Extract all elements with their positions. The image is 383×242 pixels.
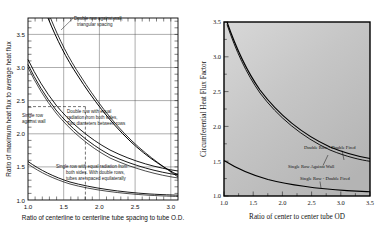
left-annot4-line-2: both sides. With double rows, [66, 170, 125, 175]
left-xtick-3-0: 3.0 [166, 203, 175, 210]
left-ytick-3-5: 3.5 [16, 31, 25, 38]
right-x-tick-labels: 1.0 1.5 2.0 2.5 3.0 3.5 [220, 199, 374, 206]
right-y-axis-title: Circumferential Heat Flux Factor [200, 60, 208, 157]
right-annot-single-row-fired: Single Row - Double Fired [300, 176, 350, 181]
left-annot2-line-2: against wall [22, 119, 46, 124]
right-xtick-3-5: 3.5 [366, 199, 374, 206]
left-x-tick-labels: 1.0 1.5 2.0 2.5 3.0 [24, 203, 176, 210]
right-y-tick-labels: 3.5 3.0 2.5 2.0 1.5 1.0 [213, 18, 221, 199]
right-chart-figure: 3.5 3.0 2.5 2.0 1.5 1.0 1.0 1.5 2.0 2.5 … [192, 0, 383, 242]
left-curve-double-row-against-wall [48, 18, 178, 177]
right-xtick-1-0: 1.0 [220, 199, 228, 206]
right-ytick-2-5: 2.5 [213, 88, 221, 95]
left-grid-horizontal [28, 34, 178, 167]
right-xtick-2-0: 2.0 [278, 199, 286, 206]
left-ytick-2-5: 2.5 [16, 97, 25, 104]
right-annot-double-row: Double Row - Double Fired [304, 145, 356, 150]
left-annotation-single-row-against-wall: Single row against wall [22, 113, 46, 124]
left-chart-svg: 3.5 3.0 2.5 2.0 1.5 1.0 1.0 1.5 2.0 2.5 … [0, 0, 192, 242]
left-annot4-line-1: Single row with equal radiation from [56, 164, 128, 169]
left-annotation-single-row-equal-radiation: Single row with equal radiation from bot… [56, 164, 128, 181]
left-annot-line-2: triangular spacing [77, 22, 113, 27]
right-ytick-3-5: 3.5 [213, 18, 221, 25]
right-xtick-1-5: 1.5 [249, 199, 257, 206]
left-xtick-1-5: 1.5 [59, 203, 68, 210]
right-chart-svg: 3.5 3.0 2.5 2.0 1.5 1.0 1.0 1.5 2.0 2.5 … [192, 0, 383, 242]
left-annot3-line-3: Two diameters between rows [67, 121, 126, 126]
left-annotation-double-row-equal-radiation: Double row with equal radiation from bot… [67, 109, 126, 126]
left-annot2-line-1: Single row [22, 113, 44, 118]
left-y-axis-title: Ratio of maximum heat flux to average he… [5, 41, 13, 177]
left-annot3-line-1: Double row with equal [67, 109, 111, 114]
right-xtick-3-0: 3.0 [337, 199, 345, 206]
left-chart-figure: 3.5 3.0 2.5 2.0 1.5 1.0 1.0 1.5 2.0 2.5 … [0, 0, 192, 242]
right-ytick-2-0: 2.0 [213, 123, 221, 130]
left-annot4-line-3: tubes are spaced equilaterally [66, 176, 127, 181]
left-ytick-2-0: 2.0 [16, 130, 25, 137]
right-ytick-1-5: 1.5 [213, 158, 221, 165]
left-annot3-line-2: radiation from both sides, [67, 115, 118, 120]
left-ytick-3-0: 3.0 [16, 64, 25, 71]
left-x-axis-title: Ratio of centerline to centerline tube s… [22, 214, 185, 222]
left-xtick-2-0: 2.0 [95, 203, 104, 210]
right-ytick-3-0: 3.0 [213, 53, 221, 60]
left-xtick-2-5: 2.5 [131, 203, 140, 210]
left-xtick-1-0: 1.0 [24, 203, 33, 210]
right-x-axis-title: Ratio of center to center tube OD [249, 213, 345, 221]
right-xtick-2-5: 2.5 [308, 199, 316, 206]
left-annot-line-1: Double row against wall, [74, 16, 123, 21]
right-plot-background [224, 22, 370, 196]
figure-pair: 3.5 3.0 2.5 2.0 1.5 1.0 1.0 1.5 2.0 2.5 … [0, 0, 383, 242]
right-annot-single-row-wall: Single Row Against Wall [288, 164, 335, 169]
left-ytick-1-5: 1.5 [16, 163, 25, 170]
